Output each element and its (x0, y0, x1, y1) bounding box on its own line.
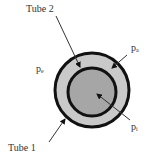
pressure-a-sub: a (136, 47, 139, 53)
tube-2-inner-circle (68, 68, 116, 116)
tube-1-label: Tube 1 (8, 143, 36, 153)
pressure-a-label: pa (131, 43, 139, 53)
pressure-e-label: pe (36, 64, 44, 74)
pressure-e-sub: e (41, 68, 44, 74)
pressure-i-label: pi (131, 122, 138, 132)
pressure-i-sub: i (136, 126, 138, 132)
tube-cross-section-diagram (0, 0, 150, 158)
tube-2-arrow (56, 16, 80, 67)
tube-1-arrow (49, 119, 65, 142)
tube-2-label: Tube 2 (26, 4, 54, 14)
